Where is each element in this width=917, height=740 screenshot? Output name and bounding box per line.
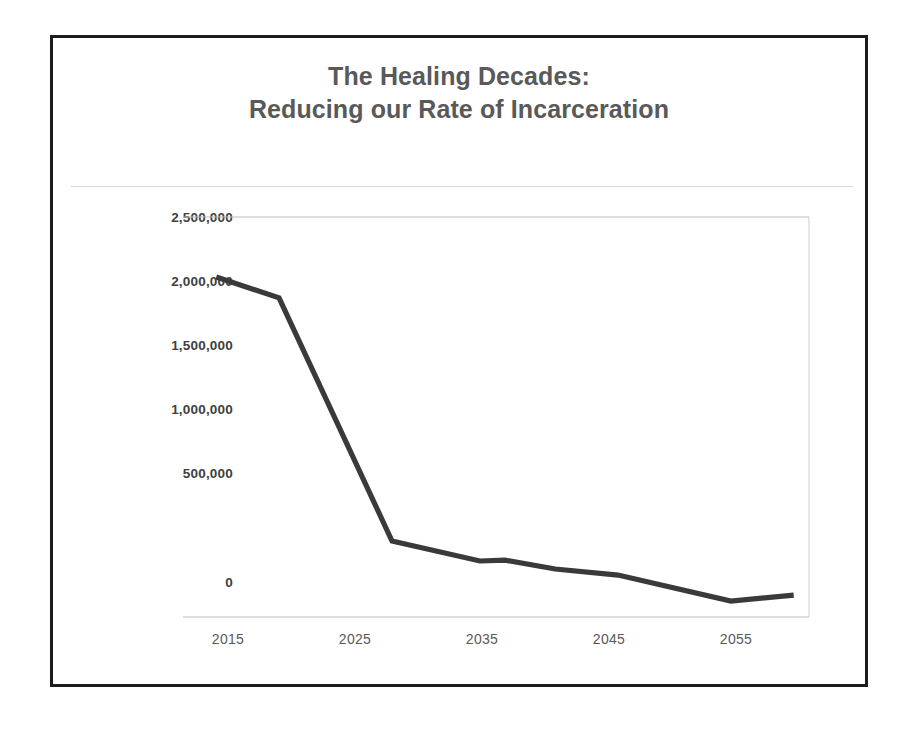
chart-canvas [53,38,865,684]
line-series-rate-of-incarceration [216,277,793,601]
slide-frame: The Healing Decades: Reducing our Rate o… [50,35,868,687]
chart-plot-area: 2,500,000 2,000,000 1,500,000 1,000,000 … [53,38,865,684]
